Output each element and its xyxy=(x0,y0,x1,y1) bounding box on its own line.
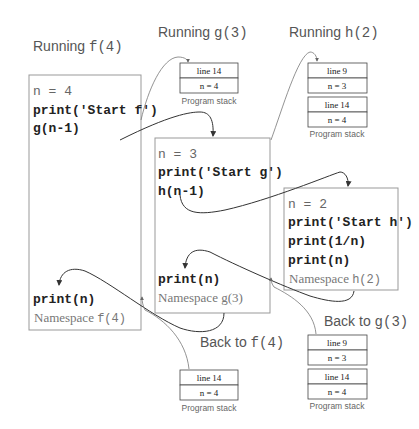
code-line: h(n-1) xyxy=(158,184,205,199)
title-back-to-g: Back to g(3) xyxy=(324,313,408,330)
code-line: n = 4 xyxy=(33,84,72,99)
program-stack-running-g: line 14 n = 4 Program stack xyxy=(180,63,238,106)
code-line: print(n) xyxy=(33,292,95,307)
svg-text:line 14: line 14 xyxy=(325,100,350,110)
recursion-diagram: Running f(4) Running g(3) Running h(2) B… xyxy=(0,0,419,429)
svg-text:n = 4: n = 4 xyxy=(328,387,347,397)
svg-text:n = 3: n = 3 xyxy=(328,81,347,91)
code-line: print('Start f') xyxy=(33,103,158,118)
fn-name: h(2) xyxy=(345,25,379,41)
svg-text:line 9: line 9 xyxy=(327,338,348,348)
program-stack-running-h: line 9 n = 3 line 14 n = 4 Program stack xyxy=(308,63,367,139)
title-running-h: Running h(2) xyxy=(289,24,379,41)
svg-text:Program stack: Program stack xyxy=(310,401,366,411)
code-line: n = 3 xyxy=(158,147,197,162)
svg-text:line 9: line 9 xyxy=(327,66,348,76)
svg-text:n = 3: n = 3 xyxy=(328,353,347,363)
fn-name: g(3) xyxy=(214,25,248,41)
code-line: print('Start g') xyxy=(158,165,283,180)
program-stack-back-to-f: line 14 n = 4 Program stack xyxy=(180,370,238,413)
code-line: print(1/n) xyxy=(288,234,366,249)
svg-text:n = 4: n = 4 xyxy=(328,115,347,125)
code-line: print(n) xyxy=(158,272,220,287)
svg-text:line 14: line 14 xyxy=(325,372,350,382)
namespace-label: Namespace g(3) xyxy=(158,290,243,305)
namespace-g-box: n = 3 print('Start g') h(n-1) print(n) N… xyxy=(155,138,283,313)
svg-text:line 14: line 14 xyxy=(197,373,222,383)
fn-name: f(4) xyxy=(251,335,285,351)
namespace-f-box: n = 4 print('Start f') g(n-1) print(n) N… xyxy=(29,75,158,330)
fn-name: f(4) xyxy=(89,39,123,55)
code-line: print('Start h') xyxy=(288,215,413,230)
fn-name: g(3) xyxy=(375,314,409,330)
namespace-label: Namespace f(4) xyxy=(34,310,126,326)
svg-text:n = 4: n = 4 xyxy=(200,388,219,398)
code-line: n = 2 xyxy=(288,197,327,212)
code-line: print(n) xyxy=(288,253,350,268)
title-running-g: Running g(3) xyxy=(158,24,248,41)
svg-text:line 14: line 14 xyxy=(197,66,222,76)
svg-text:Program stack: Program stack xyxy=(310,129,366,139)
title-back-to-f: Back to f(4) xyxy=(200,334,284,351)
svg-text:Program stack: Program stack xyxy=(182,403,238,413)
code-line: g(n-1) xyxy=(33,121,80,136)
program-stack-back-to-g: line 9 n = 3 line 14 n = 4 Program stack xyxy=(308,335,367,411)
svg-text:n = 4: n = 4 xyxy=(200,81,219,91)
namespace-h-box: n = 2 print('Start h') print(1/n) print(… xyxy=(284,188,413,290)
namespace-label: Namespace h(2) xyxy=(289,271,381,287)
title-running-f: Running f(4) xyxy=(33,38,123,55)
svg-text:Program stack: Program stack xyxy=(182,96,238,106)
